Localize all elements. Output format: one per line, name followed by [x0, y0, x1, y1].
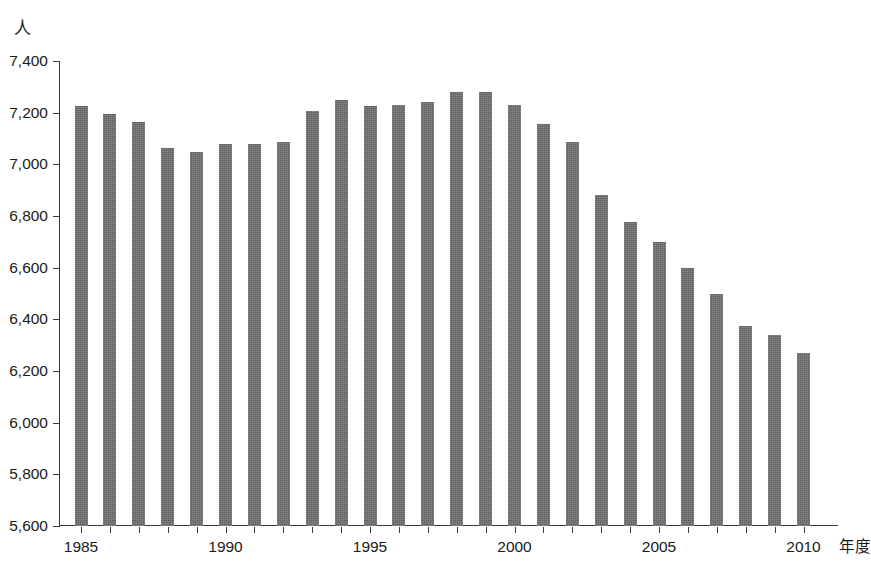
x-axis-tick-mark [515, 527, 516, 533]
y-axis-tick-mark [53, 526, 60, 527]
bar-1987 [132, 122, 145, 526]
bar-1992 [277, 142, 290, 526]
x-axis-tick-mark [457, 527, 458, 533]
y-axis-unit-label: 人 [14, 20, 31, 37]
x-axis-tick-mark [197, 527, 198, 533]
x-axis-tick-mark [572, 527, 573, 533]
x-axis-tick-mark [630, 527, 631, 533]
bar-1996 [392, 105, 405, 526]
x-axis-tick-mark [110, 527, 111, 533]
bar-1994 [335, 100, 348, 526]
bar-2005 [653, 242, 666, 526]
x-axis-tick-mark [717, 527, 718, 533]
x-axis-title: 年度 [839, 539, 871, 555]
x-axis-tick-mark [168, 527, 169, 533]
bar-1988 [161, 148, 174, 526]
x-axis-tick-mark [139, 527, 140, 533]
bar-2008 [739, 326, 752, 526]
y-axis-tick-mark [53, 164, 60, 165]
y-axis-tick-mark [53, 319, 60, 320]
x-axis-tick-mark [254, 527, 255, 533]
x-axis-tick-label-1985: 1985 [64, 539, 98, 555]
x-axis-tick-mark [341, 527, 342, 533]
y-axis-tick-mark [53, 113, 60, 114]
y-axis-tick-label: 6,000 [2, 415, 48, 431]
y-axis-tick-mark [53, 268, 60, 269]
x-axis-tick-mark [399, 527, 400, 533]
bar-2002 [566, 142, 579, 526]
y-axis-tick-label: 6,800 [2, 208, 48, 224]
bar-2006 [681, 268, 694, 526]
x-axis-tick-mark [370, 527, 371, 533]
bar-2010 [797, 353, 810, 526]
x-axis-tick-mark [226, 527, 227, 533]
y-axis-tick-mark [53, 61, 60, 62]
y-axis-tick-label: 7,000 [2, 156, 48, 172]
bar-2007 [710, 294, 723, 527]
x-axis-tick-mark [428, 527, 429, 533]
x-axis-tick-mark [312, 527, 313, 533]
x-axis-tick-mark [775, 527, 776, 533]
y-axis-tick-label: 7,200 [2, 105, 48, 121]
bar-2001 [537, 124, 550, 526]
bar-1991 [248, 144, 261, 526]
y-axis-tick-label: 7,400 [2, 53, 48, 69]
bar-1989 [190, 152, 203, 526]
x-axis-tick-label-1990: 1990 [208, 539, 242, 555]
x-axis-tick-label-2005: 2005 [642, 539, 676, 555]
y-axis-tick-label: 6,600 [2, 260, 48, 276]
bar-1995 [364, 106, 377, 526]
y-axis-tick-mark [53, 371, 60, 372]
x-axis-tick-mark [659, 527, 660, 533]
bar-2000 [508, 105, 521, 526]
x-axis-tick-mark [81, 527, 82, 533]
x-axis-tick-mark [601, 527, 602, 533]
bar-2003 [595, 195, 608, 526]
x-axis-tick-mark [804, 527, 805, 533]
x-axis-tick-mark [486, 527, 487, 533]
bar-1993 [306, 111, 319, 526]
x-axis-tick-label-2000: 2000 [497, 539, 531, 555]
y-axis-tick-label: 5,800 [2, 466, 48, 482]
y-axis-tick-label: 6,400 [2, 311, 48, 327]
bar-1985 [75, 106, 88, 526]
bar-1999 [479, 92, 492, 526]
y-axis-tick-mark [53, 216, 60, 217]
y-axis-tick-label: 6,200 [2, 363, 48, 379]
bar-2009 [768, 335, 781, 526]
bar-1998 [450, 92, 463, 526]
bar-1986 [103, 114, 116, 526]
x-axis-tick-mark [283, 527, 284, 533]
y-axis-tick-mark [53, 474, 60, 475]
y-axis-tick-mark [53, 423, 60, 424]
bar-1990 [219, 144, 232, 526]
x-axis-tick-label-2010: 2010 [786, 539, 820, 555]
x-axis-tick-mark [543, 527, 544, 533]
bar-1997 [421, 102, 434, 526]
x-axis-tick-mark [688, 527, 689, 533]
y-axis-tick-label: 5,600 [2, 518, 48, 534]
x-axis-tick-label-1995: 1995 [353, 539, 387, 555]
x-axis-tick-mark [746, 527, 747, 533]
bar-2004 [624, 222, 637, 526]
